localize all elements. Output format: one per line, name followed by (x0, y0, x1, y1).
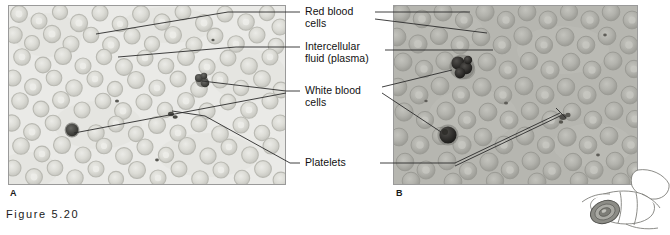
white-blood-cell-b2 (437, 124, 458, 145)
micrograph-panel-b (393, 5, 638, 185)
micrograph-panel-a (8, 5, 286, 185)
panel-letter-b: B (396, 188, 403, 198)
label-white-blood-cells: White blood cells (305, 84, 361, 109)
label-intercellular-fluid: Intercellular fluid (plasma) (305, 40, 369, 65)
fingertip-illustration (580, 168, 670, 235)
label-platelets: Platelets (305, 156, 346, 168)
panel-letter-a: A (10, 188, 17, 198)
label-red-blood-cells: Red blood cells (305, 5, 353, 30)
figure-container: Red blood cells Intercellular fluid (pla… (0, 0, 670, 235)
white-blood-cell-b1 (450, 55, 475, 80)
white-blood-cell-a2 (65, 123, 80, 138)
panel-a-image (8, 5, 286, 185)
figure-caption: Figure 5.20 (6, 208, 79, 220)
panel-b-image (393, 5, 638, 185)
